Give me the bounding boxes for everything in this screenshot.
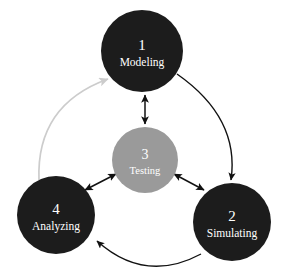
cycle-diagram: 1 Modeling 2 Simulating 3 Testing 4 Anal… (0, 0, 288, 276)
connector-analyzing-testing (85, 174, 116, 190)
node-testing[interactable]: 3 Testing (112, 127, 178, 193)
node-modeling-label: Modeling (120, 56, 165, 69)
node-simulating-number: 2 (228, 208, 236, 224)
node-simulating[interactable]: 2 Simulating (193, 183, 271, 261)
node-simulating-label: Simulating (207, 227, 258, 240)
node-modeling-number: 1 (138, 37, 146, 53)
connector-modeling-to-simulating (177, 74, 232, 180)
diagram-canvas: 1 Modeling 2 Simulating 3 Testing 4 Anal… (0, 0, 288, 276)
node-analyzing[interactable]: 4 Analyzing (17, 176, 95, 254)
node-analyzing-label: Analyzing (32, 220, 80, 233)
node-testing-number: 3 (142, 147, 149, 162)
connector-analyzing-to-modeling (39, 79, 108, 180)
node-analyzing-number: 4 (52, 201, 60, 217)
node-modeling[interactable]: 1 Modeling (101, 10, 183, 92)
connector-simulating-to-analyzing (97, 241, 201, 266)
connector-testing-simulating (174, 174, 204, 190)
node-testing-label: Testing (130, 165, 162, 176)
